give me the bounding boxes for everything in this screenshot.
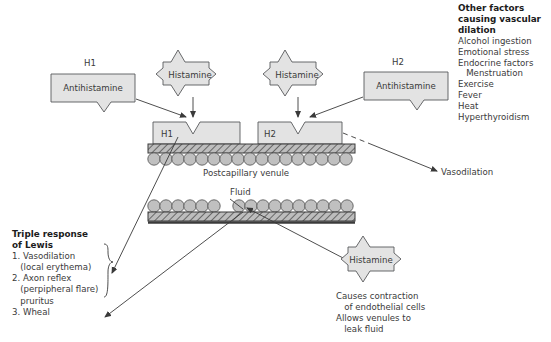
triple-response-item: (local erythema): [12, 262, 137, 273]
triple-response-item: (perpipheral flare): [12, 284, 137, 295]
label-postcapillary-venule: Postcapillary venule: [203, 168, 289, 178]
other-factors-item: Exercise: [458, 79, 551, 90]
label-histamine-right: Histamine: [263, 70, 331, 80]
histamine-effect-line: Causes contraction: [336, 291, 456, 302]
label-antihistamine-left: Antihistamine: [51, 83, 135, 93]
triple-response-heading-line2: of Lewis: [12, 240, 137, 251]
endothelial-cells-upper: [148, 153, 352, 165]
histamine-effect-line: Allows venules to: [336, 313, 456, 324]
arrow-antihistamine-right-to-h2: [310, 97, 363, 117]
label-histamine-left: Histamine: [156, 70, 224, 80]
other-factors-heading-line1: Other factors: [458, 3, 551, 14]
other-factors-item: Endocrine factors: [458, 58, 551, 69]
other-factors-panel: Other factors causing vascular dilation …: [458, 3, 551, 123]
histamine-effect-line: leak fluid: [336, 324, 456, 335]
label-antihistamine-right: Antihistamine: [364, 81, 448, 91]
histamine-effects-panel: Causes contraction of endothelial cells …: [336, 291, 456, 335]
other-factors-item: Menstruation: [458, 68, 551, 79]
other-factors-item: Hyperthyroidism: [458, 112, 551, 123]
arrow-antihistamine-left-to-h1: [136, 99, 186, 117]
other-factors-item: Fever: [458, 90, 551, 101]
label-h1-top: H1: [84, 58, 96, 68]
endothelial-cells-lower: [148, 200, 353, 212]
triple-response-item: 1. Vasodilation: [12, 251, 137, 262]
histamine-diagram: H1 H2 Histamine Histamine Antihistamine …: [0, 0, 551, 342]
label-h2-top: H2: [392, 57, 404, 67]
postcapillary-venule-upper: [148, 144, 355, 165]
triple-response-panel: Triple response of Lewis 1. Vasodilation…: [12, 229, 137, 318]
triple-response-item: 3. Wheal: [12, 307, 137, 318]
other-factors-item: Emotional stress: [458, 47, 551, 58]
arrow-h2-to-vasodilation: [368, 143, 437, 171]
triple-response-item: 2. Axon reflex: [12, 273, 137, 284]
histamine-effect-line: of endothelial cells: [336, 302, 456, 313]
label-vasodilation: Vasodilation: [441, 167, 493, 177]
postcapillary-venule-lower: [148, 200, 355, 223]
triple-response-heading-line1: Triple response: [12, 229, 137, 240]
other-factors-item: Heat: [458, 101, 551, 112]
label-receptor-h1: H1: [161, 129, 173, 139]
triple-response-item: pruritus: [12, 296, 137, 307]
arrow-h2-to-vasodilation-dash: [343, 133, 368, 143]
other-factors-heading-line3: dilation: [458, 25, 551, 36]
label-histamine-bottom: Histamine: [341, 255, 401, 265]
other-factors-item: Alcohol ingestion: [458, 36, 551, 47]
label-receptor-h2: H2: [264, 129, 276, 139]
other-factors-heading-line2: causing vascular: [458, 14, 551, 25]
antihistamine-left-shape: [51, 74, 135, 112]
label-fluid: Fluid: [230, 187, 251, 197]
antihistamine-right-shape: [364, 72, 448, 110]
